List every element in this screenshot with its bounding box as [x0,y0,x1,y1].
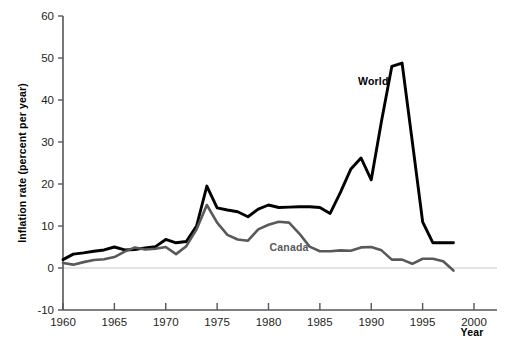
x-tick-label: 1960 [50,316,76,328]
chart-background [0,0,510,353]
y-tick-label: 50 [41,52,54,64]
x-axis-tick-labels: 196019651970197519801985199019952000 [50,316,487,328]
series-label-world: World [358,75,389,87]
y-tick-label: 20 [41,178,54,190]
y-tick-label: 60 [41,10,54,22]
x-tick-label: 1985 [307,316,333,328]
y-axis-title: Inflation rate (percent per year) [16,83,28,243]
y-tick-label: 10 [41,220,54,232]
x-axis-title: Year [461,326,484,338]
y-tick-label: 30 [41,136,54,148]
x-tick-label: 1980 [256,316,282,328]
x-tick-label: 1975 [204,316,230,328]
y-tick-label: 40 [41,94,54,106]
y-tick-label: 0 [48,262,54,274]
series-label-canada: Canada [269,241,308,253]
x-tick-label: 1965 [102,316,128,328]
x-tick-label: 1970 [153,316,179,328]
y-tick-label: -10 [37,304,54,316]
inflation-line-chart: -100102030405060 19601965197019751980198… [0,0,510,353]
x-tick-label: 1990 [358,316,384,328]
chart-figure: -100102030405060 19601965197019751980198… [0,0,510,353]
x-tick-label: 1995 [410,316,436,328]
